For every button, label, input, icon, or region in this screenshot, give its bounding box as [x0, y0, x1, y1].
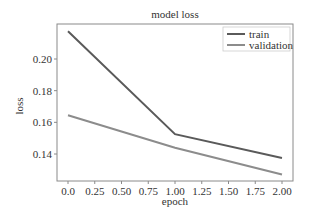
x-tick-label: 1.25	[192, 185, 212, 197]
x-tick-label: 2.00	[272, 185, 292, 197]
x-tick-label: 0.75	[139, 185, 159, 197]
y-axis: 0.140.160.180.20	[33, 53, 57, 160]
y-axis-label: loss	[13, 97, 25, 114]
x-tick-label: 0.25	[85, 185, 105, 197]
chart-title: model loss	[151, 8, 198, 20]
x-tick-label: 1.50	[219, 185, 239, 197]
y-tick-label: 0.20	[33, 53, 53, 65]
legend: trainvalidation	[223, 27, 293, 51]
y-tick-label: 0.18	[33, 85, 53, 97]
x-tick-label: 0.0	[61, 185, 75, 197]
x-axis-label: epoch	[162, 195, 189, 207]
loss-chart: model loss 0.140.160.180.20 0.00.250.500…	[0, 0, 309, 224]
x-tick-label: 0.50	[112, 185, 132, 197]
y-tick-label: 0.16	[33, 116, 53, 128]
y-tick-label: 0.14	[33, 148, 53, 160]
x-tick-label: 1.75	[246, 185, 266, 197]
legend-label-validation: validation	[249, 39, 293, 51]
